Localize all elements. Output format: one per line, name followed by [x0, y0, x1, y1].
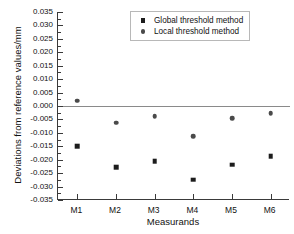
x-tick-label: M2 — [100, 205, 130, 215]
x-tick — [232, 194, 233, 199]
y-tick-minor — [58, 126, 61, 127]
y-tick-label: 0.025 — [13, 34, 53, 43]
chart-figure: Deviations from reference values/mm 0.03… — [0, 0, 294, 234]
y-tick-label: 0.035 — [13, 7, 53, 16]
data-point — [114, 165, 119, 170]
y-tick — [58, 173, 63, 174]
y-tick-minor — [58, 86, 61, 87]
y-tick-minor — [58, 166, 61, 167]
y-tick — [58, 25, 63, 26]
data-point — [268, 111, 273, 116]
zero-reference-line — [58, 106, 290, 107]
x-tick — [116, 194, 117, 199]
y-tick — [58, 52, 63, 53]
y-tick-minor — [58, 180, 61, 181]
y-tick-label: 0.005 — [13, 88, 53, 97]
y-tick-label: -0.025 — [13, 168, 53, 177]
legend-item-global: Global threshold method — [135, 15, 243, 26]
x-tick-label: M6 — [255, 205, 285, 215]
y-tick-label: 0.010 — [13, 74, 53, 83]
y-tick — [58, 93, 63, 94]
y-tick-label: -0.035 — [13, 195, 53, 204]
data-point — [191, 178, 196, 183]
y-tick-label: 0.030 — [13, 20, 53, 29]
y-tick-minor — [58, 72, 61, 73]
x-axis-title: Measurands — [57, 216, 289, 227]
y-tick — [58, 200, 63, 201]
y-tick — [58, 79, 63, 80]
x-tick — [193, 194, 194, 199]
circle-marker-icon — [135, 29, 151, 33]
y-tick — [58, 39, 63, 40]
legend-label-local: Local threshold method — [151, 27, 239, 36]
y-tick-label: -0.020 — [13, 155, 53, 164]
data-point — [114, 120, 119, 125]
y-tick-minor — [58, 19, 61, 20]
data-point — [230, 162, 235, 167]
legend-item-local: Local threshold method — [135, 26, 243, 37]
x-tick-label: M4 — [177, 205, 207, 215]
y-tick-minor — [58, 99, 61, 100]
y-tick — [58, 146, 63, 147]
y-tick-minor — [58, 46, 61, 47]
y-tick — [58, 66, 63, 67]
y-tick-label: 0.020 — [13, 47, 53, 56]
data-point — [152, 114, 157, 119]
y-tick-minor — [58, 32, 61, 33]
y-tick-label: -0.030 — [13, 182, 53, 191]
x-tick — [155, 194, 156, 199]
square-marker-icon — [135, 18, 151, 22]
y-tick — [58, 187, 63, 188]
y-tick-minor — [58, 113, 61, 114]
y-tick — [58, 12, 63, 13]
y-tick-label: -0.015 — [13, 141, 53, 150]
data-point — [191, 134, 196, 139]
y-tick — [58, 133, 63, 134]
x-tick-label: M5 — [216, 205, 246, 215]
x-tick-label: M1 — [61, 205, 91, 215]
chart-legend: Global threshold method Local threshold … — [130, 11, 250, 41]
data-point — [75, 144, 80, 149]
y-tick-label: 0.015 — [13, 61, 53, 70]
y-tick — [58, 106, 63, 107]
y-tick — [58, 160, 63, 161]
data-point — [152, 159, 157, 164]
x-tick — [271, 194, 272, 199]
x-tick — [77, 194, 78, 199]
data-point — [75, 98, 80, 103]
y-tick-label: -0.010 — [13, 128, 53, 137]
x-tick-label: M3 — [139, 205, 169, 215]
y-tick-label: 0.000 — [13, 101, 53, 110]
y-tick-minor — [58, 140, 61, 141]
y-tick-minor — [58, 59, 61, 60]
y-tick-minor — [58, 193, 61, 194]
legend-label-global: Global threshold method — [151, 16, 243, 25]
y-tick-label: -0.005 — [13, 114, 53, 123]
y-tick — [58, 119, 63, 120]
data-point — [230, 116, 235, 121]
y-tick-minor — [58, 153, 61, 154]
data-point — [268, 154, 273, 159]
